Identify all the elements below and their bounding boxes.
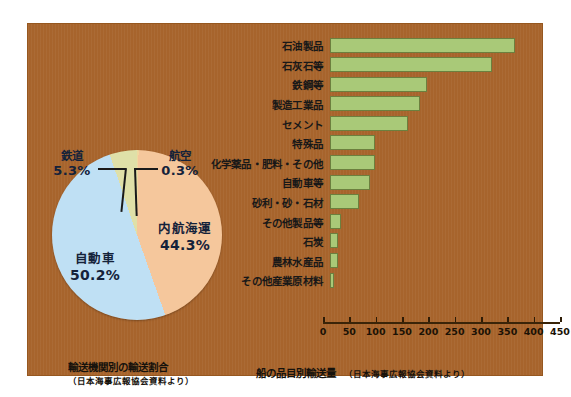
bar-track — [330, 271, 533, 291]
bar-category-label: 石灰石等 — [188, 58, 330, 73]
bar-row: 石油製品 — [188, 36, 533, 56]
bar-category-label: 石油製品 — [188, 38, 330, 53]
bar-category-label: 特殊品 — [188, 136, 330, 151]
bar-track — [330, 36, 533, 56]
pie-label-automobile: 自動車 50.2% — [64, 252, 126, 283]
bar-track — [330, 95, 533, 115]
axis-tick — [507, 317, 509, 322]
bar-row: その他製品等 — [188, 212, 533, 232]
bar-segment — [330, 77, 427, 92]
bar-segment — [330, 38, 515, 53]
axis-tick-label: 200 — [418, 326, 438, 337]
bar-segment — [330, 253, 338, 268]
bar-segment — [330, 214, 341, 229]
bar-track — [330, 193, 533, 213]
bar-row: 石灰石等 — [188, 56, 533, 76]
bar-track — [330, 114, 533, 134]
bar-segment — [330, 96, 420, 111]
leader-line-railway-h — [98, 168, 126, 170]
bar-category-label: 農林水産品 — [188, 254, 330, 269]
pie-chart-caption: 輸送機関別の輸送割合 （日本海事広報協会資料より） — [68, 360, 194, 388]
bar-row: 製造工業品 — [188, 95, 533, 115]
axis-tick-label: 450 — [550, 326, 570, 337]
axis-tick-label: 0 — [320, 326, 327, 337]
axis-tick — [481, 317, 483, 322]
axis-tick-label: 350 — [497, 326, 517, 337]
bar-category-label: 化学薬品・肥料・その他 — [188, 156, 330, 171]
axis-tick-label: 50 — [343, 326, 356, 337]
pie-label-automobile-value: 50.2% — [64, 267, 126, 283]
pie-caption-title: 輸送機関別の輸送割合 — [68, 361, 168, 373]
bar-category-label: 鉄鋼等 — [188, 77, 330, 92]
bar-category-label: 製造工業品 — [188, 97, 330, 112]
pie-label-railway-name: 鉄道 — [44, 150, 100, 163]
bar-segment — [330, 233, 338, 248]
axis-tick-label: 250 — [445, 326, 465, 337]
bar-track — [330, 232, 533, 252]
pie-label-railway: 鉄道 5.3% — [44, 150, 100, 179]
bar-track — [330, 134, 533, 154]
bar-track — [330, 154, 533, 174]
bar-segment — [330, 273, 334, 288]
axis-tick-label: 300 — [471, 326, 491, 337]
bar-row: 特殊品 — [188, 134, 533, 154]
bar-row: 砂利・砂・石材 — [188, 193, 533, 213]
bar-row: 農林水産品 — [188, 252, 533, 272]
bar-category-label: セメント — [188, 117, 330, 132]
bar-category-label: その他産業原材料 — [188, 273, 330, 288]
bar-caption-title: 船の品目別輸送量 — [256, 367, 336, 379]
axis-tick — [349, 317, 351, 322]
bar-segment — [330, 57, 492, 72]
axis-tick — [402, 317, 404, 322]
bar-row: 化学薬品・肥料・その他 — [188, 154, 533, 174]
bar-row: セメント — [188, 114, 533, 134]
axis-tick — [455, 317, 457, 322]
bar-track — [330, 56, 533, 76]
bar-segment — [330, 116, 408, 131]
bar-row: 石炭 — [188, 232, 533, 252]
pie-caption-source: （日本海事広報協会資料より） — [68, 375, 194, 387]
axis-tick — [534, 317, 536, 322]
bar-row: その他産業原材料 — [188, 271, 533, 291]
bar-row: 鉄鋼等 — [188, 75, 533, 95]
axis-line — [323, 322, 560, 324]
bar-track — [330, 252, 533, 272]
axis-tick-label: 400 — [524, 326, 544, 337]
bar-chart: 石油製品石灰石等鉄鋼等製造工業品セメント特殊品化学薬品・肥料・その他自動車等砂利… — [188, 36, 533, 326]
bar-category-label: その他製品等 — [188, 215, 330, 230]
bar-chart-caption: 船の品目別輸送量 （日本海事広報協会資料より） — [256, 365, 470, 380]
axis-tick-label: 150 — [392, 326, 412, 337]
bar-row: 自動車等 — [188, 173, 533, 193]
bar-chart-x-axis: 050100150200250300350400450 — [323, 322, 563, 346]
pie-label-railway-value: 5.3% — [44, 164, 100, 179]
pie-label-automobile-name: 自動車 — [64, 252, 126, 266]
bar-track — [330, 173, 533, 193]
bar-segment — [330, 155, 375, 170]
bar-category-label: 砂利・砂・石材 — [188, 195, 330, 210]
axis-tick — [376, 317, 378, 322]
bar-segment — [330, 135, 375, 150]
bar-category-label: 自動車等 — [188, 175, 330, 190]
chart-panel: 鉄道 5.3% 航空 0.3% 内航海運 44.3% 自動車 50.2% 石油製… — [28, 24, 542, 375]
bar-caption-source: （日本海事広報協会資料より） — [344, 369, 470, 379]
bar-track — [330, 212, 533, 232]
bar-category-label: 石炭 — [188, 234, 330, 249]
bar-track — [330, 75, 533, 95]
axis-tick — [428, 317, 430, 322]
bar-segment — [330, 194, 359, 209]
axis-tick-label: 100 — [366, 326, 386, 337]
bar-segment — [330, 175, 370, 190]
axis-tick — [323, 317, 325, 322]
axis-tick — [560, 317, 562, 322]
